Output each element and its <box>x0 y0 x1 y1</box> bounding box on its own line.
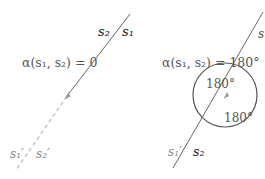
label-s1-prime: s₁′ <box>10 147 24 161</box>
equation-right: α(s₁, s₂) = 180° <box>162 55 260 70</box>
angle-label-lower: 180° <box>224 111 253 125</box>
label-s1-top-right: s₁ <box>258 27 265 41</box>
label-s1-top: s₁ <box>122 24 134 39</box>
label-s1-prime-right: s₁′ <box>168 145 182 159</box>
label-s2-top: s₂ <box>98 24 110 39</box>
angle-label-upper: 180° <box>206 77 235 91</box>
equation-left: α(s₁, s₂) = 0 <box>22 55 97 70</box>
left-panel: s₂ s₁ α(s₁, s₂) = 0 s₁′ s₂′ <box>10 14 134 170</box>
label-s2-prime: s₂′ <box>36 147 50 161</box>
right-panel: s₁ α(s₁, s₂) = 180° 180° 180° s₁′ s₂ <box>162 12 265 168</box>
label-s2-bottom-right: s₂ <box>193 144 204 159</box>
diagram-canvas: s₂ s₁ α(s₁, s₂) = 0 s₁′ s₂′ s₁ α(s₁, s₂)… <box>0 0 265 179</box>
arrow-icon <box>224 92 230 99</box>
